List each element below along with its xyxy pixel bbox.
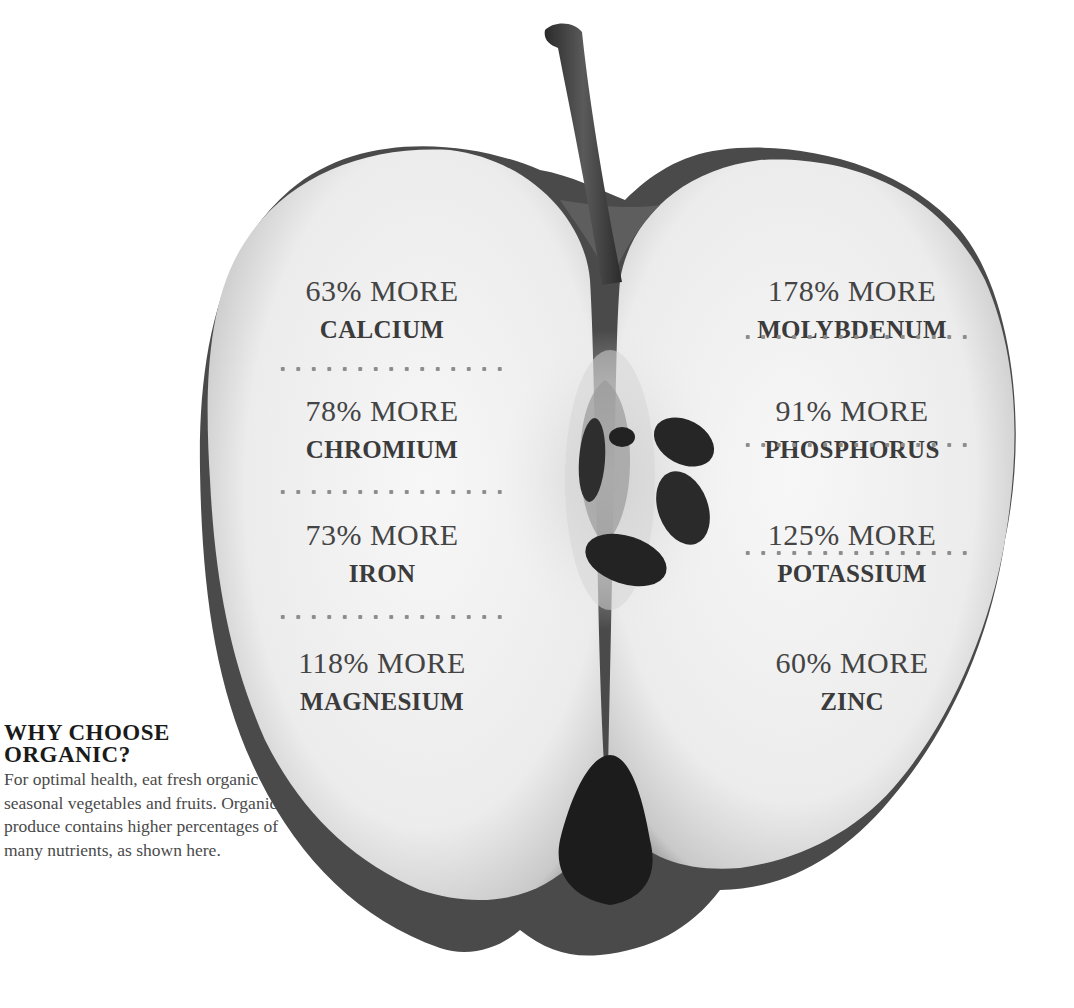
caption-body: For optimal health, eat fresh organic se…	[4, 768, 294, 862]
nutrient-zinc: 60% MORE ZINC	[722, 645, 982, 719]
nutrient-percent: 178% MORE	[722, 273, 982, 309]
nutrient-percent: 73% MORE	[252, 517, 512, 553]
dotted-divider	[275, 489, 505, 495]
nutrient-percent: 125% MORE	[722, 517, 982, 553]
nutrient-chromium: 78% MORE CHROMIUM	[252, 393, 512, 467]
nutrient-percent: 91% MORE	[722, 393, 982, 429]
nutrient-percent: 60% MORE	[722, 645, 982, 681]
nutrient-name: ZINC	[722, 685, 982, 719]
nutrient-name: MAGNESIUM	[252, 685, 512, 719]
nutrient-name: CALCIUM	[252, 313, 512, 347]
dotted-divider	[740, 334, 970, 340]
dotted-divider	[740, 442, 970, 448]
nutrient-percent: 118% MORE	[252, 645, 512, 681]
nutrient-name: IRON	[252, 557, 512, 591]
nutrient-calcium: 63% MORE CALCIUM	[252, 273, 512, 347]
nutrient-percent: 78% MORE	[252, 393, 512, 429]
caption-title-line2: ORGANIC?	[4, 744, 294, 766]
why-organic-caption: WHY CHOOSE ORGANIC? For optimal health, …	[4, 722, 294, 862]
caption-title-line1: WHY CHOOSE	[4, 722, 294, 744]
dotted-divider	[740, 550, 970, 556]
dotted-divider	[275, 614, 505, 620]
nutrient-name: POTASSIUM	[722, 557, 982, 591]
nutrient-percent: 63% MORE	[252, 273, 512, 309]
nutrient-name: PHOSPHORUS	[722, 433, 982, 467]
nutrient-phosphorus: 91% MORE PHOSPHORUS	[722, 393, 982, 467]
seed	[609, 427, 635, 447]
nutrient-name: MOLYBDENUM	[722, 313, 982, 347]
nutrient-iron: 73% MORE IRON	[252, 517, 512, 591]
dotted-divider	[275, 366, 505, 372]
nutrient-name: CHROMIUM	[252, 433, 512, 467]
nutrient-magnesium: 118% MORE MAGNESIUM	[252, 645, 512, 719]
